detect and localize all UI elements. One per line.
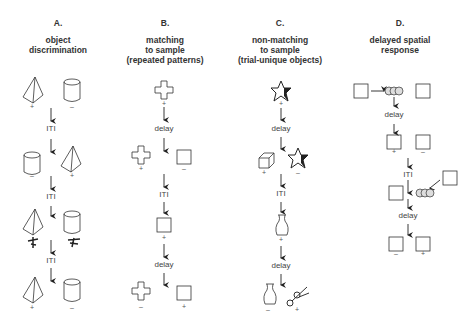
step-label: delay xyxy=(261,261,301,270)
plus-sign: + xyxy=(276,236,286,243)
minus-sign: – xyxy=(179,165,189,172)
step-label: ITI xyxy=(261,189,301,198)
plus-sign: + xyxy=(27,103,37,110)
step-label: ITI xyxy=(31,192,71,201)
step-label: delay xyxy=(261,124,301,133)
plus-sign: + xyxy=(418,250,428,257)
minus-sign: – xyxy=(67,103,77,110)
step-label: ITI xyxy=(388,170,428,179)
plus-sign: + xyxy=(179,303,189,310)
plus-sign: + xyxy=(276,100,286,107)
plus-sign: + xyxy=(389,148,399,155)
step-label: delay xyxy=(374,110,414,119)
diagram-figures xyxy=(0,0,470,327)
plus-sign: + xyxy=(259,169,269,176)
minus-sign: – xyxy=(136,303,146,310)
minus-sign: – xyxy=(391,250,401,257)
plus-sign: + xyxy=(159,100,169,107)
plus-sign: + xyxy=(159,234,169,241)
step-label: delay xyxy=(144,260,184,269)
minus-sign: – xyxy=(293,169,303,176)
minus-sign: – xyxy=(263,306,273,313)
plus-sign: + xyxy=(136,165,146,172)
step-label: ITI xyxy=(31,256,71,265)
step-label: delay xyxy=(388,211,428,220)
plus-sign: + xyxy=(27,304,37,311)
plus-sign: + xyxy=(67,172,77,179)
step-label: ITI xyxy=(31,124,71,133)
step-label: ITI xyxy=(144,190,184,199)
minus-sign: – xyxy=(27,172,37,179)
step-label: delay xyxy=(144,124,184,133)
plus-sign: + xyxy=(292,306,302,313)
minus-sign: – xyxy=(67,304,77,311)
minus-sign: – xyxy=(418,148,428,155)
